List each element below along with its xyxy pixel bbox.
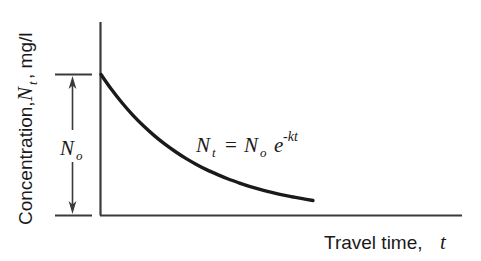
y-axis-label-variable-sub: t [25, 81, 40, 85]
equation-lhs-sub: t [212, 145, 216, 160]
no-label-sub: o [76, 148, 83, 163]
no-label-group: N o [58, 130, 88, 163]
y-axis-label-group: Concentration, N t , mg/l [13, 33, 40, 225]
chart-canvas: N o N t = N o e -kt Travel time, t Conce… [0, 0, 481, 261]
y-axis-label-units: , mg/l [15, 33, 36, 79]
equation-lhs-var: N [195, 133, 211, 157]
no-label-var: N [59, 136, 75, 160]
axes-group [100, 22, 462, 216]
decay-equation-group: N t = N o e -kt [195, 129, 299, 160]
equation-rhs-sub: o [260, 145, 267, 160]
equation-exp-base: e [274, 133, 283, 157]
x-axis-label-variable: t [440, 230, 447, 254]
equation-rhs-var: N [243, 133, 259, 157]
x-axis-label-group: Travel time, t [324, 230, 447, 254]
equation-equals: = [225, 133, 237, 157]
y-axis-label-main: Concentration, [15, 101, 36, 225]
y-axis-label-variable: N [13, 86, 37, 102]
x-axis-label-main: Travel time, [324, 232, 423, 253]
figure-root: N o N t = N o e -kt Travel time, t Conce… [0, 0, 481, 261]
equation-exp-superscript: -kt [283, 129, 299, 144]
